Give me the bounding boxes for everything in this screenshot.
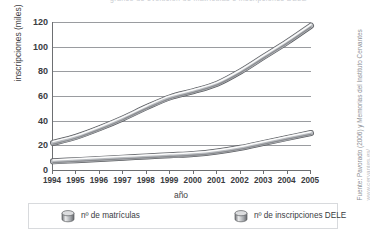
y-axis-tick-label: 120: [22, 17, 48, 27]
x-axis-tick: [146, 170, 147, 174]
series-line-shade: [53, 27, 311, 144]
x-axis-tick: [263, 170, 264, 174]
source-line-1: Fuente: Pavorado (2006) y Memorias del I…: [356, 18, 363, 201]
series-line-body: [53, 26, 311, 143]
x-axis-tick: [216, 170, 217, 174]
y-axis-tick-label: 60: [22, 91, 48, 101]
series-line-1: [53, 24, 311, 144]
cylinder-icon: [234, 209, 248, 222]
x-axis-tick: [193, 170, 194, 174]
x-axis-tick: [310, 170, 311, 174]
x-axis-tick: [122, 170, 123, 174]
clipped-title-strip: gráfico de evolución de matrículas e ins…: [0, 0, 373, 9]
plot-area: [52, 22, 311, 171]
x-axis-tick: [240, 170, 241, 174]
y-axis-tick-label: 20: [22, 140, 48, 150]
clipped-title-text: gráfico de evolución de matrículas e ins…: [110, 0, 307, 2]
y-axis-tick-label: 100: [22, 42, 48, 52]
y-axis-title: inscripciones (miles): [13, 0, 23, 113]
x-axis-tick: [75, 170, 76, 174]
series-line-highlight: [53, 24, 311, 141]
x-axis-tick: [52, 170, 53, 174]
source-line-2: www.cervantes.es/: [364, 18, 371, 201]
series-lines: [53, 22, 311, 170]
x-axis-title: año: [52, 190, 310, 200]
x-axis-tick: [169, 170, 170, 174]
x-axis-tick: [287, 170, 288, 174]
legend-item-label: nº de inscripciones DELE: [254, 211, 346, 220]
y-axis-tick-label: 80: [22, 66, 48, 76]
legend-item: nº de inscripciones DELE: [234, 209, 346, 222]
chart-legend: nº de matrículasnº de inscripciones DELE: [28, 203, 338, 229]
legend-item: nº de matrículas: [61, 209, 140, 222]
series-line-2: [53, 132, 311, 163]
y-axis-tick-label: 0: [22, 165, 48, 175]
cylinder-icon: [61, 209, 75, 222]
source-note: Fuente: Pavorado (2006) y Memorias del I…: [330, 18, 370, 204]
x-axis-tick-label: 2005: [293, 176, 327, 185]
x-axis-labels: 1994199519961997199819992000200120022003…: [52, 170, 310, 190]
legend-item-label: nº de matrículas: [81, 211, 140, 220]
y-axis-tick-label: 40: [22, 116, 48, 126]
chart-screenshot: gráfico de evolución de matrículas e ins…: [0, 0, 373, 234]
x-axis-tick: [99, 170, 100, 174]
series-line-edge: [53, 26, 311, 143]
